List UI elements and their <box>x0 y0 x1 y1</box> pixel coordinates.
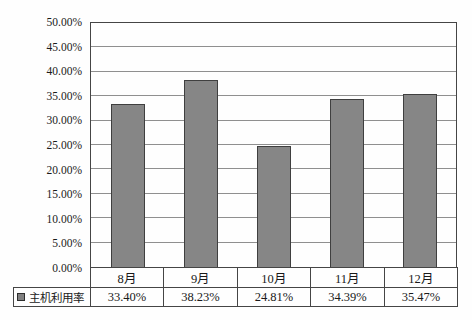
y-tick-label: 20.00% <box>22 163 82 177</box>
table-corner-spacer <box>14 268 91 288</box>
bar-chart: 50.00%45.00%40.00%35.00%30.00%25.00%20.0… <box>0 0 472 320</box>
gridline <box>91 95 456 96</box>
category-cell: 11月 <box>311 268 385 288</box>
plot-area <box>90 22 457 268</box>
bar-9月 <box>184 80 218 267</box>
gridline <box>91 46 456 47</box>
y-tick-label: 25.00% <box>22 138 82 152</box>
value-row: 主机利用率33.40%38.23%24.81%34.39%35.47% <box>14 288 458 307</box>
value-cell: 33.40% <box>91 288 164 307</box>
y-tick-label: 15.00% <box>22 187 82 201</box>
value-cell: 34.39% <box>311 288 385 307</box>
legend-series-label: 主机利用率 <box>29 289 84 305</box>
bar-12月 <box>403 94 437 267</box>
gridline <box>91 71 456 72</box>
legend-series-marker-icon <box>17 293 25 301</box>
y-tick-label: 10.00% <box>22 212 82 226</box>
y-tick-label: 40.00% <box>22 64 82 78</box>
y-tick-label: 50.00% <box>22 15 82 29</box>
category-cell: 9月 <box>164 268 238 288</box>
bar-8月 <box>111 104 145 267</box>
y-tick-label: 5.00% <box>22 236 82 250</box>
category-row: 8月9月10月11月12月 <box>14 268 458 288</box>
y-tick-label: 35.00% <box>22 89 82 103</box>
category-cell: 12月 <box>385 268 458 288</box>
value-cell: 38.23% <box>164 288 238 307</box>
data-table: 8月9月10月11月12月 主机利用率33.40%38.23%24.81%34.… <box>13 267 458 307</box>
value-cell: 24.81% <box>238 288 311 307</box>
gridline <box>91 120 456 121</box>
bar-11月 <box>330 99 364 267</box>
legend-cell: 主机利用率 <box>14 288 91 307</box>
y-tick-label: 45.00% <box>22 40 82 54</box>
gridline <box>91 144 456 145</box>
bar-10月 <box>257 146 291 267</box>
y-tick-label: 30.00% <box>22 113 82 127</box>
category-cell: 8月 <box>91 268 164 288</box>
value-cell: 35.47% <box>385 288 458 307</box>
category-cell: 10月 <box>238 268 311 288</box>
y-axis: 50.00%45.00%40.00%35.00%30.00%25.00%20.0… <box>0 0 86 290</box>
